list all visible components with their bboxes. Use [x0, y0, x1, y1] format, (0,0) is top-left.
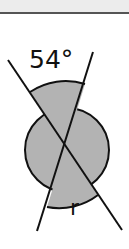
angle-label-r: r: [70, 197, 79, 219]
angle-diagram: 54° r: [0, 0, 129, 249]
angle-label-54: 54°: [29, 47, 73, 72]
intersecting-lines-figure: [0, 0, 129, 249]
